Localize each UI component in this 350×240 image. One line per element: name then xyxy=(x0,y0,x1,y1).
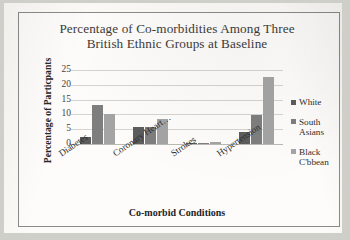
y-axis-tick-label: 15 xyxy=(45,95,71,104)
bar xyxy=(263,77,274,144)
y-axis-tick-label: 25 xyxy=(45,65,71,74)
bar xyxy=(210,142,221,144)
chart-title-line-2: British Ethnic Groups at Baseline xyxy=(47,36,307,51)
legend-label: White xyxy=(299,97,321,108)
legend-swatch xyxy=(291,119,296,124)
y-axis-tick-label: 20 xyxy=(45,80,71,89)
y-axis-tick-label: 10 xyxy=(45,109,71,118)
legend-item: Black C'bbean xyxy=(291,147,350,168)
document-page: Percentage of Co-morbidities Among Three… xyxy=(4,3,342,233)
chart-title-line-1: Percentage of Co-morbidities Among Three xyxy=(47,21,307,36)
y-axis-tick-label: 5 xyxy=(45,124,71,133)
bar xyxy=(104,114,115,144)
bar xyxy=(92,105,103,144)
legend-label: South Asians xyxy=(299,117,324,138)
x-axis-title: Co-morbid Conditions xyxy=(71,207,283,218)
bar xyxy=(198,143,209,144)
legend-swatch xyxy=(291,100,296,105)
legend-label: Black C'bbean xyxy=(299,147,329,168)
legend-item: White xyxy=(291,97,350,108)
legend-item: South Asians xyxy=(291,117,350,138)
chart-frame: Percentage of Co-morbidities Among Three… xyxy=(18,12,340,227)
scanned-page-background: Percentage of Co-morbidities Among Three… xyxy=(0,0,350,240)
chart-legend: WhiteSouth AsiansBlack C'bbean xyxy=(291,97,350,177)
y-axis-title-container: Percentage of Particpants xyxy=(32,61,46,161)
bar-group xyxy=(177,70,230,144)
legend-swatch xyxy=(291,149,296,154)
chart-title: Percentage of Co-morbidities Among Three… xyxy=(47,21,307,51)
bar-group xyxy=(71,70,124,144)
